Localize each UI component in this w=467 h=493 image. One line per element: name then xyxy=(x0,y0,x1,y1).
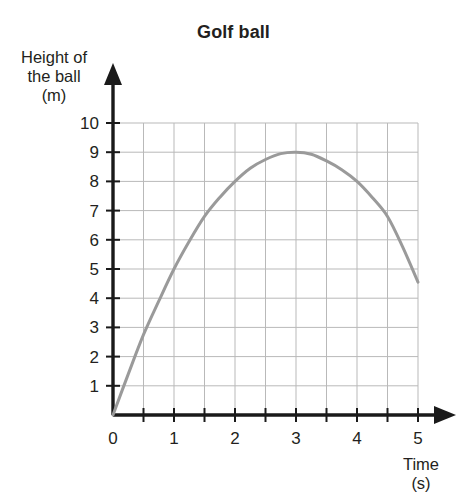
x-tick-label: 1 xyxy=(169,429,178,448)
golf-ball-chart: Golf ball Height of the ball (m) Time (s… xyxy=(0,0,467,493)
x-tick-label: 5 xyxy=(413,429,422,448)
x-tick-label: 3 xyxy=(291,429,300,448)
y-tick-label: 4 xyxy=(90,289,99,308)
y-tick-label: 7 xyxy=(90,202,99,221)
tick-labels: 01234512345678910 xyxy=(80,114,423,448)
y-tick-label: 8 xyxy=(90,172,99,191)
axis-ticks xyxy=(106,123,418,422)
y-axis-arrowhead xyxy=(104,63,122,85)
y-tick-label: 3 xyxy=(90,318,99,337)
x-tick-label: 0 xyxy=(108,429,117,448)
y-tick-label: 5 xyxy=(90,260,99,279)
x-tick-label: 4 xyxy=(352,429,361,448)
y-tick-label: 1 xyxy=(90,377,99,396)
plot-area: 01234512345678910 xyxy=(0,0,467,493)
axis-lines xyxy=(104,63,456,424)
y-tick-label: 10 xyxy=(80,114,99,133)
y-tick-label: 9 xyxy=(90,143,99,162)
x-tick-label: 2 xyxy=(230,429,239,448)
y-tick-label: 6 xyxy=(90,231,99,250)
x-axis-arrowhead xyxy=(434,406,456,424)
y-tick-label: 2 xyxy=(90,348,99,367)
gridlines xyxy=(113,123,418,415)
